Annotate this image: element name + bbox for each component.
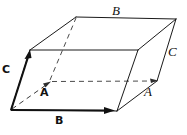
edge-top-back [76,17,176,19]
figure-canvas [0,0,187,135]
edge-length-b-label: B [112,4,120,17]
vector-a-label: A [40,87,49,98]
hidden-edge-arrowhead [150,79,158,84]
vector-c-shaft [11,57,28,110]
hidden-edge-back-left-vertical [50,18,76,80]
edge-top-left-receding [30,17,76,50]
vector-b [11,107,115,114]
hidden-edge-back-bottom [52,81,156,82]
vector-c [11,50,32,111]
vector-b-label: B [55,115,63,126]
hidden-edge-arrow [150,79,158,84]
edge-length-c-label: C [168,45,177,58]
vector-b-shaft [11,110,108,111]
vector-c-arrowhead [25,50,32,60]
vector-b-arrowhead [104,107,115,114]
edge-front-right [117,50,138,111]
vector-c-label: C [2,64,10,75]
edge-length-a-label: A [144,85,152,98]
vector-parallelepiped-figure: A B C A B C [0,0,187,135]
